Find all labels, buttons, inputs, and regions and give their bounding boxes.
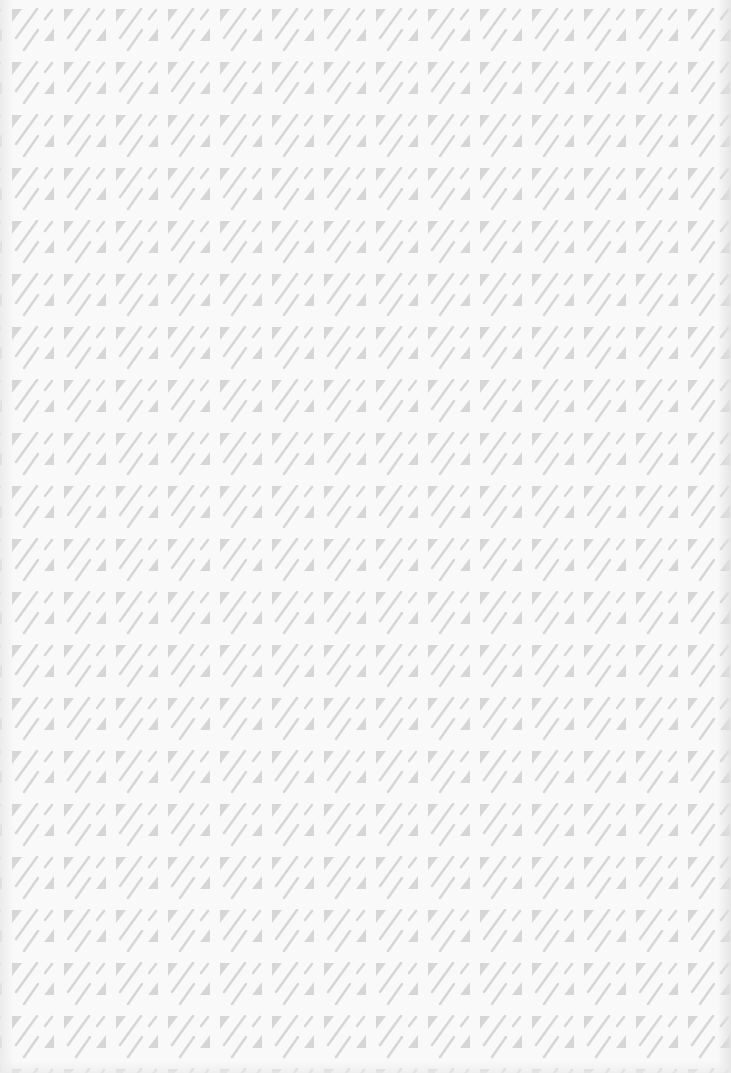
pattern-canvas bbox=[0, 0, 731, 1073]
geometric-pattern bbox=[0, 0, 731, 1073]
